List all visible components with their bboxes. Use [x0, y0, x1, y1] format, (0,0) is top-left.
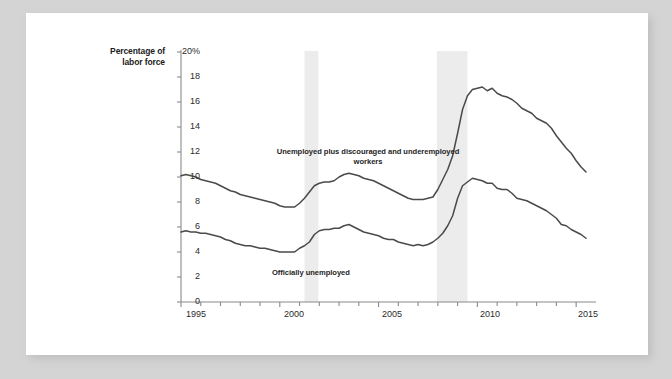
y-tick-label-14: 14 [166, 121, 200, 131]
y-tick-label-10: 10 [166, 171, 200, 181]
recession-band-0 [304, 51, 318, 302]
y-tick-label-2: 2 [166, 271, 200, 281]
y-tick-label-16: 16 [166, 96, 200, 106]
chart-area: Percentage of labor force 20% 18 16 14 1… [26, 13, 648, 355]
y-tick-label-8: 8 [166, 196, 200, 206]
x-tick-label-2000: 2000 [274, 309, 314, 319]
y-axis-title: Percentage of labor force [74, 46, 165, 68]
y-axis-title-line-2: labor force [74, 57, 165, 68]
y-tick-label-6: 6 [166, 221, 200, 231]
series-label-official: Officially unemployed [272, 268, 392, 278]
figure-paper: Percentage of labor force 20% 18 16 14 1… [26, 13, 648, 355]
x-tick-label-2015: 2015 [568, 309, 608, 319]
y-tick-label-12: 12 [166, 146, 200, 156]
recession-band-1 [437, 51, 468, 302]
y-tick-label-18: 18 [166, 71, 200, 81]
x-tick-label-1995: 1995 [176, 309, 216, 319]
x-tick-label-2010: 2010 [470, 309, 510, 319]
chart-series-lines [181, 87, 586, 252]
series-path-1 [181, 178, 586, 252]
y-tick-label-4: 4 [166, 246, 200, 256]
screenshot-stage: Percentage of labor force 20% 18 16 14 1… [0, 0, 672, 379]
y-tick-label-0: 0 [166, 296, 200, 306]
series-label-broad: Unemployed plus discouraged and underemp… [273, 147, 463, 167]
y-axis-title-line-1: Percentage of [74, 46, 165, 57]
y-tick-label-20: 20% [166, 46, 200, 56]
x-tick-label-2005: 2005 [372, 309, 412, 319]
recession-bands [304, 51, 467, 302]
